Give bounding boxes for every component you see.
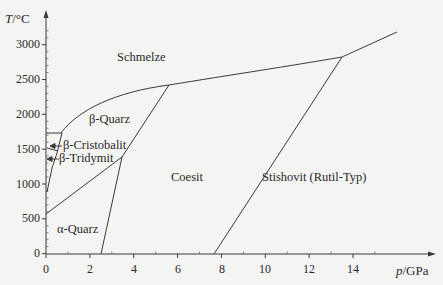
arrow-left-icon [50,144,55,149]
alpha-beta-quartz-line [46,157,122,214]
x-tick-label: 4 [124,263,144,275]
x-axis-arrow-icon [428,252,436,257]
y-tick-label: 3000 [0,38,40,50]
region-label-alpha-quarz: α-Quarz [57,223,98,236]
y-tick-label: 500 [0,212,40,224]
region-label-beta-quarz: β-Quarz [89,113,130,126]
x-axis-unit: /GPa [403,263,429,278]
x-axis-title: p/GPa [396,264,429,277]
x-ticks [46,254,353,258]
x-tick-label: 2 [80,263,100,275]
y-axis-unit: /°C [12,11,29,26]
region-label-beta-cristobalit: β-Cristobalit [63,139,126,152]
y-tick-label: 2000 [0,108,40,120]
x-tick-label: 14 [343,263,363,275]
region-label-stishovit: Stishovit (Rutil-Typ) [262,171,366,184]
x-tick-label: 0 [36,263,56,275]
x-tick-label: 8 [212,263,232,275]
x-tick-label: 6 [168,263,188,275]
y-axis-title: T/°C [5,12,30,25]
x-tick-label: 12 [299,263,319,275]
x-tick-label: 10 [255,263,275,275]
region-label-beta-tridymit: β-Tridymit [59,152,114,165]
region-label-coesit: Coesit [171,171,203,184]
coesite-stishovite-line [214,57,342,254]
y-tick-label: 0 [0,247,40,259]
axes [46,16,430,254]
y-tick-label: 1000 [0,178,40,190]
quartz-coesite-line [101,85,169,254]
cristobalite-tridymite-line [47,148,58,151]
y-tick-label: 1500 [0,143,40,155]
y-major-ticks [42,45,46,254]
arrow-left-icon [47,157,52,162]
y-axis-arrow-icon [44,10,49,18]
y-tick-label: 2500 [0,73,40,85]
region-label-schmelze: Schmelze [117,51,166,64]
